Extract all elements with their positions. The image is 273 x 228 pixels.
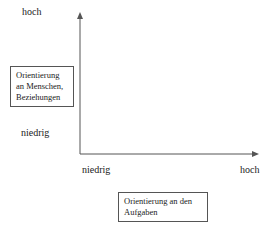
y-axis-title-box: Orientierung an Menschen, Beziehungen (10, 66, 74, 107)
y-axis-title-line: Orientierung (16, 70, 68, 81)
y-axis-low-label: niedrig (21, 127, 49, 139)
x-axis-high-label: hoch (240, 164, 259, 176)
x-axis-title-line: Orientierung an den (124, 196, 202, 207)
y-axis-arrowhead-icon (77, 12, 83, 19)
x-axis-title-line: Aufgaben (124, 207, 202, 218)
y-axis-title-line: Beziehungen (16, 92, 68, 103)
y-axis-title-line: an Menschen, (16, 81, 68, 92)
x-axis-low-label: niedrig (82, 164, 110, 176)
y-axis-high-label: hoch (22, 6, 41, 18)
x-axis-arrowhead-icon (252, 151, 259, 157)
x-axis-title-box: Orientierung an den Aufgaben (118, 192, 208, 222)
